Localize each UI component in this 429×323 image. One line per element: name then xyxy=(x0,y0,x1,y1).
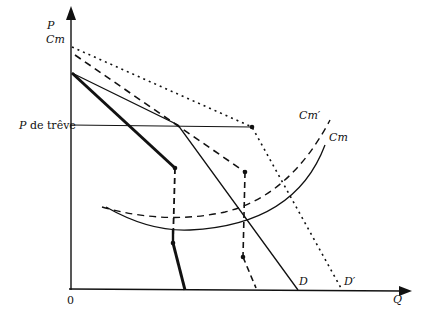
diagram-canvas: P Cm 0 Q P de trêve D D′ Cm′ Cm xyxy=(0,0,429,323)
x-axis xyxy=(69,289,402,291)
truce-price-label: P de trêve xyxy=(18,119,76,132)
demand-prime-label: D′ xyxy=(343,275,356,288)
origin-label: 0 xyxy=(67,294,74,307)
kinked-demand-diagram: P Cm 0 Q P de trêve D D′ Cm′ Cm xyxy=(0,0,429,323)
demand-label: D xyxy=(298,275,308,288)
dashed-lower-segment xyxy=(243,257,256,288)
marginal-cost-prime-curve xyxy=(102,120,330,217)
marginal-revenue-upper xyxy=(72,73,175,168)
y-axis-label-cm: Cm xyxy=(46,33,65,46)
marginal-cost-label: Cm xyxy=(329,131,348,144)
point xyxy=(241,255,246,260)
y-axis-arrow-icon xyxy=(66,6,76,20)
x-axis-label: Q xyxy=(393,293,402,306)
marginal-cost-curve xyxy=(106,145,325,230)
marginal-revenue-lower xyxy=(173,243,185,290)
marginal-cost-prime-label: Cm′ xyxy=(299,109,321,122)
point xyxy=(243,170,248,175)
demand-prime-curve xyxy=(72,47,342,290)
truce-price-line xyxy=(71,125,252,127)
y-axis-label-p: P xyxy=(46,19,55,32)
kink-point xyxy=(250,125,255,130)
